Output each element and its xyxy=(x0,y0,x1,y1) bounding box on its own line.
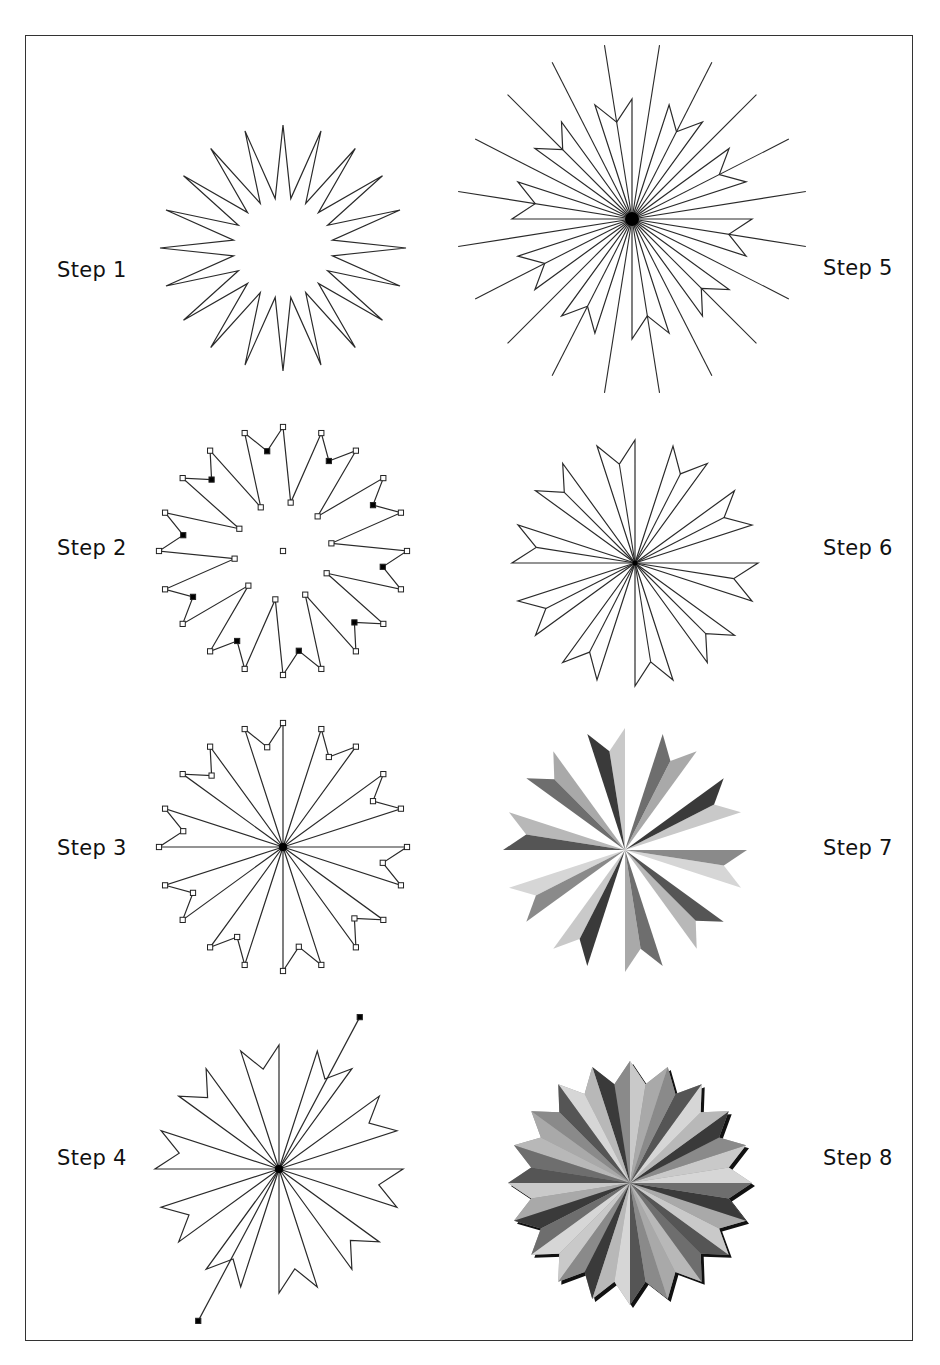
step-1-label: Step 1 xyxy=(57,258,127,282)
step-2-star-with-nodes xyxy=(156,424,409,677)
figure-artwork xyxy=(0,0,940,1365)
step-6-petals-with-spokes xyxy=(512,440,758,686)
step-5-label: Step 5 xyxy=(823,256,893,280)
step-4-petals-with-axis-line xyxy=(155,1015,403,1324)
step-8-label: Step 8 xyxy=(823,1146,893,1170)
step-3-petals-with-nodes xyxy=(156,720,409,973)
step-1-star-outline xyxy=(160,125,406,371)
step-7-label: Step 7 xyxy=(823,836,893,860)
step-2-label: Step 2 xyxy=(57,536,127,560)
step-8-shaded-star-with-shadow xyxy=(508,1061,755,1308)
step-3-label: Step 3 xyxy=(57,836,127,860)
step-6-label: Step 6 xyxy=(823,536,893,560)
step-4-label: Step 4 xyxy=(57,1146,127,1170)
step-5-petals-with-rays xyxy=(458,45,806,393)
step-7-shaded-petals xyxy=(503,728,747,972)
